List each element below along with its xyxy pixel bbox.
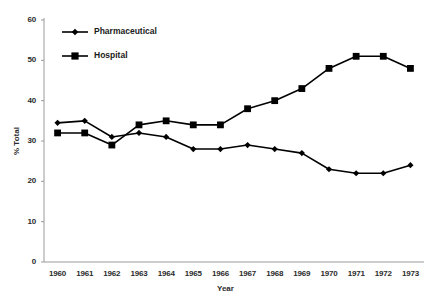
- x-axis-tick-label: 1962: [97, 269, 127, 278]
- x-axis-tick-label: 1972: [368, 269, 398, 278]
- data-point: [298, 85, 305, 92]
- data-point: [244, 105, 251, 112]
- x-axis-tick-label: 1963: [124, 269, 154, 278]
- x-axis-tick-label: 1961: [70, 269, 100, 278]
- data-point: [353, 170, 359, 176]
- data-point: [81, 130, 88, 137]
- legend-marker-square: [71, 52, 78, 59]
- data-point: [54, 130, 61, 137]
- data-point: [380, 53, 387, 60]
- data-point: [407, 162, 413, 168]
- data-point: [190, 121, 197, 128]
- data-point: [353, 53, 360, 60]
- x-axis-title: Year: [217, 284, 234, 293]
- legend-label-hospital: Hospital: [94, 50, 128, 60]
- y-axis-title: % Total: [12, 127, 21, 155]
- data-point: [108, 142, 115, 149]
- legend-label-pharmaceutical: Pharmaceutical: [94, 26, 157, 36]
- x-axis-tick-label: 1965: [178, 269, 208, 278]
- data-point: [272, 146, 278, 152]
- x-axis-tick-label: 1966: [205, 269, 235, 278]
- y-axis-tick-label: 40: [14, 96, 36, 105]
- data-point: [244, 142, 250, 148]
- chart-container: 0102030405060196019611962196319641965196…: [0, 0, 438, 304]
- y-axis-tick-label: 10: [14, 217, 36, 226]
- x-axis-tick-label: 1967: [233, 269, 263, 278]
- legend-marker-diamond: [72, 29, 79, 36]
- x-axis-tick-label: 1973: [395, 269, 425, 278]
- x-axis-tick-label: 1964: [151, 269, 181, 278]
- data-point: [136, 121, 143, 128]
- series-pharmaceutical: [54, 118, 413, 177]
- y-axis-tick-label: 60: [14, 15, 36, 24]
- data-point: [54, 120, 60, 126]
- y-axis-tick-label: 0: [14, 257, 36, 266]
- data-point: [136, 130, 142, 136]
- data-point: [217, 121, 224, 128]
- x-axis-tick-label: 1969: [287, 269, 317, 278]
- data-point: [271, 97, 278, 104]
- data-point: [190, 146, 196, 152]
- series-line: [58, 56, 411, 145]
- y-axis-tick-label: 50: [14, 55, 36, 64]
- data-point: [163, 117, 170, 124]
- data-point: [407, 65, 414, 72]
- x-axis-tick-label: 1968: [260, 269, 290, 278]
- data-point: [163, 134, 169, 140]
- data-point: [217, 146, 223, 152]
- x-axis-tick-label: 1970: [314, 269, 344, 278]
- data-point: [326, 65, 333, 72]
- x-axis-tick-label: 1960: [43, 269, 73, 278]
- x-axis-tick-label: 1971: [341, 269, 371, 278]
- data-point: [380, 170, 386, 176]
- y-axis-tick-label: 20: [14, 176, 36, 185]
- chart-plot-area: [0, 0, 438, 304]
